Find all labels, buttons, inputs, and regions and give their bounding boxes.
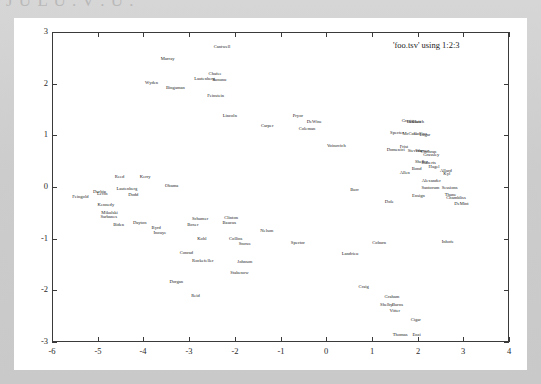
y-axis-tick <box>504 290 509 291</box>
data-point-label: Cantwell <box>214 44 231 49</box>
data-point-label: Johnson <box>237 260 252 265</box>
plot-card: -3-2-10123-6-5-4-3-2-101234 'foo.tsv' us… <box>14 18 527 370</box>
data-point-label: Feinstein <box>207 94 224 99</box>
y-axis-tick-label-text: 1 <box>22 130 48 139</box>
data-point-label: Snowe <box>239 242 252 247</box>
data-point-label: Ensign <box>412 194 425 199</box>
x-axis-tick <box>235 337 236 342</box>
data-point-label: Grassley <box>423 153 439 158</box>
y-axis-tick <box>504 187 509 188</box>
y-axis-tick-label-text: -3 <box>22 337 48 346</box>
data-point-label: Dorgan <box>169 280 183 285</box>
x-axis-tick <box>189 337 190 342</box>
data-point-label: Pryor <box>293 113 303 118</box>
data-point-label: DeWine <box>307 120 322 125</box>
x-axis-tick-label: -6 <box>32 347 72 356</box>
x-axis-tick <box>98 32 99 37</box>
y-axis-tick <box>52 84 57 85</box>
x-axis-tick <box>463 337 464 342</box>
data-point-label: Sununu <box>212 77 226 82</box>
plot-legend: 'foo.tsv' using 1:2:3 <box>393 40 460 50</box>
y-axis-tick-label-text: 2 <box>22 79 48 88</box>
x-axis-tick-label: -1 <box>261 347 301 356</box>
data-point-label: Nelson <box>260 229 273 234</box>
x-axis-tick-label: 4 <box>489 347 529 356</box>
x-axis-tick <box>418 32 419 37</box>
x-axis-tick <box>189 32 190 37</box>
x-axis-tick-label: 3 <box>443 347 483 356</box>
data-point-label: Allen <box>400 170 410 175</box>
data-point-label: Dole <box>385 199 394 204</box>
data-point-label: Shelby <box>380 303 393 308</box>
x-axis-tick <box>281 337 282 342</box>
data-point-label: Inouye <box>154 230 167 235</box>
data-point-label: Thomas <box>393 333 408 338</box>
x-axis-tick <box>509 337 510 342</box>
x-axis-tick <box>235 32 236 37</box>
data-point-label: Lincoln <box>223 114 237 119</box>
x-axis-tick <box>52 32 53 37</box>
y-axis-tick-label-text: 3 <box>22 27 48 36</box>
y-axis-tick <box>52 135 57 136</box>
x-axis-tick-label: -5 <box>78 347 118 356</box>
data-point-label: Biden <box>113 223 124 228</box>
data-point-label: Baucus <box>223 221 237 226</box>
y-axis-tick <box>504 84 509 85</box>
x-axis-tick <box>52 337 53 342</box>
data-point-label: Vitter <box>390 309 400 314</box>
x-axis-tick <box>143 32 144 37</box>
scatter-plot: -3-2-10123-6-5-4-3-2-101234 'foo.tsv' us… <box>14 18 527 370</box>
x-axis-tick-label: -2 <box>215 347 255 356</box>
data-point-label: Graham <box>385 294 400 299</box>
data-point-label: DeMint <box>454 201 468 206</box>
y-axis-tick-label-text: -1 <box>22 234 48 243</box>
data-point-label: Reid <box>191 293 200 298</box>
data-point-label: Dodd <box>128 193 138 198</box>
data-point-label: Boxer <box>187 223 198 228</box>
data-point-label: Alexander <box>422 179 441 184</box>
data-point-label: Spector <box>291 241 305 246</box>
data-point-label: Sessions <box>442 186 458 191</box>
data-point-label: Kerry <box>140 174 151 179</box>
data-point-label: Reed <box>115 174 124 179</box>
data-point-label: Santorum <box>421 185 439 190</box>
data-point-label: Coburn <box>372 241 386 246</box>
y-axis-tick <box>504 342 509 343</box>
data-point-label: Rockefeller <box>192 259 213 264</box>
data-point-label: Obama <box>165 184 178 189</box>
data-point-label: Lugar <box>419 133 430 138</box>
data-point-label: Lautenberg <box>116 187 137 192</box>
y-axis-tick-label-text: -2 <box>22 285 48 294</box>
y-axis-tick <box>504 239 509 240</box>
data-point-label: Cigar <box>411 318 421 323</box>
x-axis-tick <box>143 337 144 342</box>
data-point-label: Schumer <box>192 217 208 222</box>
data-point-label: Hagel <box>429 165 440 170</box>
data-point-label: Bond <box>412 167 422 172</box>
x-axis-tick <box>509 32 510 37</box>
data-point-label: Feingold <box>72 195 88 200</box>
data-point-label: Burns <box>392 303 403 308</box>
data-point-label: Coleman <box>299 127 316 132</box>
data-point-label: Carper <box>261 124 274 129</box>
data-point-label: Craig <box>359 285 369 290</box>
y-axis-tick <box>52 239 57 240</box>
data-point-label: Wyden <box>145 80 158 85</box>
y-axis-tick <box>52 187 57 188</box>
x-axis-tick <box>372 32 373 37</box>
data-point-label: Voinovich <box>327 143 346 148</box>
data-point-label: Kyl <box>443 171 450 176</box>
x-axis-tick <box>98 337 99 342</box>
x-axis-tick-label: -3 <box>169 347 209 356</box>
x-axis-tick <box>281 32 282 37</box>
x-axis-tick <box>418 337 419 342</box>
x-axis-tick <box>372 337 373 342</box>
data-point-label: Stabenow <box>230 271 248 276</box>
data-point-label: Conrad <box>180 251 194 256</box>
data-point-label: Landrieu <box>342 252 359 257</box>
data-point-label: Inhofe <box>442 240 454 245</box>
data-point-label: Kennedy <box>98 202 115 207</box>
y-axis-tick <box>52 342 57 343</box>
x-axis-tick <box>326 337 327 342</box>
x-axis-tick <box>463 32 464 37</box>
